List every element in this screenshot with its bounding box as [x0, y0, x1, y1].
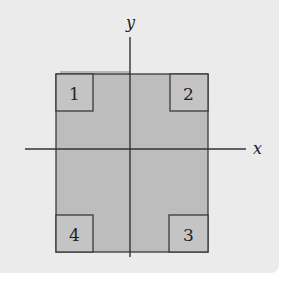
corner-label-3: 3 [183, 225, 194, 245]
corner-label-4: 4 [69, 225, 80, 245]
coordinate-diagram: y x 1 2 3 4 [0, 0, 286, 281]
corner-label-1: 1 [69, 84, 80, 104]
x-axis-label: x [253, 139, 262, 158]
corner-label-2: 2 [183, 84, 194, 104]
y-axis-label: y [125, 13, 136, 32]
